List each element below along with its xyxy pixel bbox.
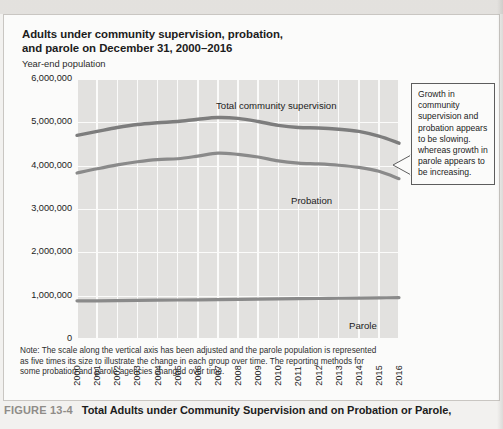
figure-caption-text: Total Adults under Community Supervision…	[82, 404, 451, 416]
series-label-total-community-supervision: Total community supervision	[216, 100, 337, 111]
y-axis-tick-label: 1,000,000	[6, 290, 72, 300]
series-label-probation: Probation	[291, 195, 332, 206]
plot-wrapper: 01,000,0002,000,0003,000,0004,000,0005,0…	[4, 15, 501, 402]
y-axis-tick-label: 2,000,000	[6, 246, 72, 256]
line-probation	[77, 153, 399, 179]
line-total-community-supervision	[77, 118, 399, 144]
footnote-line-1: Note: The scale along the vertical axis …	[20, 346, 475, 357]
y-axis-tick-label: 3,000,000	[6, 203, 72, 213]
y-axis-tick-label: 6,000,000	[6, 73, 72, 83]
figure-panel: Adults under community supervision, prob…	[3, 14, 500, 401]
y-axis-tick-labels: 01,000,0002,000,0003,000,0004,000,0005,0…	[4, 79, 72, 339]
callout-pointer-icon	[393, 154, 413, 176]
series-lines	[77, 79, 399, 339]
footnote-line-3: some probation and parole agencies chang…	[20, 367, 475, 378]
footnote-line-2: as five times its size to illustrate the…	[20, 357, 475, 368]
series-label-parole: Parole	[349, 320, 377, 331]
y-axis-tick-label: 4,000,000	[6, 160, 72, 170]
callout-annotation: Growth in community supervision and prob…	[411, 83, 495, 185]
chart-footnote: Note: The scale along the vertical axis …	[20, 346, 475, 378]
figure-caption: FIGURE 13-4Total Adults under Community …	[4, 404, 499, 416]
figure-number: FIGURE 13-4	[4, 404, 73, 416]
line-parole	[77, 298, 399, 301]
y-axis-tick-label: 0	[6, 333, 72, 343]
y-axis-tick-label: 5,000,000	[6, 116, 72, 126]
